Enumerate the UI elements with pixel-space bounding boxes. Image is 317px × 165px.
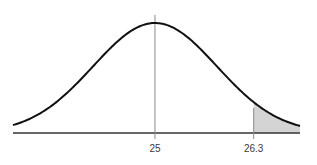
normal-distribution-chart: 25 26.3	[0, 0, 317, 165]
chart-canvas	[0, 0, 317, 165]
mean-tick-label: 25	[149, 143, 160, 154]
cutoff-tick-label: 26.3	[244, 143, 263, 154]
